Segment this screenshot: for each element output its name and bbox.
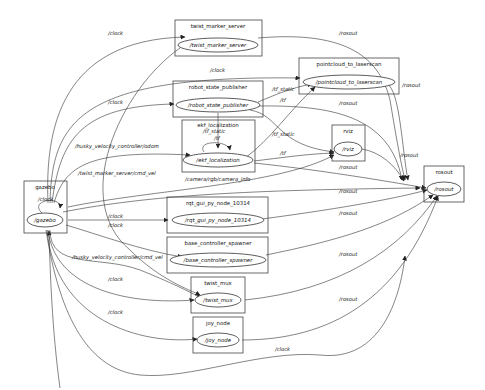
edge-clock-base[interactable] xyxy=(66,225,182,257)
node-pointcloud-to-laserscan[interactable]: pointcloud_to_laserscan /pointcloud_to_l… xyxy=(299,58,399,94)
label-rosout-base: /rosout xyxy=(338,210,358,216)
label-tf-static-pc: /tf_static xyxy=(271,86,295,93)
cluster-title: rqt_gui_py_node_10314 xyxy=(186,200,251,207)
edge-clock-twist-mux[interactable] xyxy=(48,230,194,301)
cluster-title: twist_mux xyxy=(204,280,232,287)
cluster-title: rviz xyxy=(343,128,353,134)
cluster-title: gazebo xyxy=(35,184,55,191)
node-label: /rqt_gui_py_node_10314 xyxy=(184,217,251,224)
label-rosout-joy: /rosout xyxy=(338,296,358,302)
edge-tf-rviz[interactable] xyxy=(254,153,334,161)
label-odom: /husky_velocity_controller/odom xyxy=(74,143,159,150)
self-loop-label-tf: /tf xyxy=(213,135,221,141)
edge-rosout-base[interactable] xyxy=(266,195,433,255)
node-label: /robot_state_publisher xyxy=(187,102,249,109)
label-rosout-twist-marker: /rosout xyxy=(338,30,358,36)
node-label: /twist_mux xyxy=(202,297,233,304)
label-twist-marker-cmd-vel: /twist_marker_server/cmd_vel xyxy=(77,170,156,177)
cluster-title: twist_marker_server xyxy=(191,23,246,30)
label-rosout-rviz: /rosout xyxy=(399,152,419,158)
node-rqt-gui-py-node[interactable]: rqt_gui_py_node_10314 /rqt_gui_py_node_1… xyxy=(167,197,268,233)
label-camera-info: /camera/rgb/camera_info xyxy=(184,176,250,183)
node-label: /ekf_localization xyxy=(195,157,240,164)
edge-clock-robot-state[interactable] xyxy=(52,104,174,203)
node-rosout[interactable]: rosout /rosout xyxy=(424,166,464,202)
edge-rosout-robot-state[interactable] xyxy=(258,106,402,180)
node-base-controller-spawner[interactable]: base_controller_spawner /base_controller… xyxy=(167,237,268,273)
self-loop-label-tf-static: /tf_static xyxy=(202,128,226,135)
label-tf-rviz: /tf xyxy=(279,150,287,156)
node-label: /rviz xyxy=(341,146,354,152)
label-clock-rqt: /clock xyxy=(107,213,124,219)
label-rosout-pointcloud: /rosout xyxy=(401,82,421,88)
node-twist-marker-server[interactable]: twist_marker_server /twist_marker_server xyxy=(175,20,262,56)
label-rosout-rqt: /rosout xyxy=(338,188,358,194)
edge-rosout-pointcloud[interactable] xyxy=(387,84,408,180)
label-clock-pointcloud: /clock xyxy=(209,67,226,73)
label-clock-base: /clock xyxy=(107,222,124,228)
label-clock-rosout-bottom: /clock xyxy=(274,346,291,352)
node-label: /gazebo xyxy=(33,217,56,224)
node-label: /rosout xyxy=(434,186,455,192)
label-clock-joy: /clock xyxy=(107,309,124,315)
node-joy-node[interactable]: joy_node /joy_node xyxy=(193,317,243,353)
node-robot-state-publisher[interactable]: robot_state_publisher /robot_state_publi… xyxy=(173,81,263,117)
label-tf-pc: /tf xyxy=(279,97,287,103)
node-twist-mux[interactable]: twist_mux /twist_mux xyxy=(191,277,245,313)
edge-gazebo-self-loop[interactable] xyxy=(39,200,60,213)
cluster-title: robot_state_publisher xyxy=(189,84,248,91)
cluster-title: rosout xyxy=(435,169,452,175)
node-gazebo[interactable]: gazebo /clock /gazebo xyxy=(24,181,67,233)
edge-rosout-rviz[interactable] xyxy=(362,149,404,181)
cluster-title: joy_node xyxy=(205,320,231,327)
node-ekf-localization[interactable]: ekf_localization /tf_static /tf /ekf_loc… xyxy=(182,120,255,172)
label-husky-cmd-vel: /husky_velocity_controller/cmd_vel xyxy=(71,254,163,261)
cluster-title: base_controller_spawner xyxy=(185,240,253,247)
label-rosout-twist-mux: /rosout xyxy=(338,251,358,257)
self-loop-label-clock: /clock xyxy=(37,196,54,202)
label-clock-twist-mux: /clock xyxy=(107,276,124,282)
node-label: /joy_node xyxy=(204,337,232,344)
node-label: /twist_marker_server xyxy=(189,42,247,49)
cluster-title: pointcloud_to_laserscan xyxy=(317,61,382,68)
node-label: /pointcloud_to_laserscan xyxy=(315,79,383,86)
edge-ekf-self-loop[interactable] xyxy=(203,143,230,152)
node-label: /base_controller_spawner xyxy=(183,257,254,264)
label-rosout-ekf: /rosout xyxy=(338,164,358,170)
label-tf-static-rviz: /tf_static xyxy=(271,131,295,138)
node-rviz[interactable]: rviz /rviz xyxy=(332,125,365,161)
label-clock-twist-marker: /clock xyxy=(107,30,124,36)
label-clock-robot-state: /clock xyxy=(107,99,124,105)
edge-clock-twist-marker[interactable] xyxy=(48,37,185,203)
label-rosout-robot-state: /rosout xyxy=(338,100,358,106)
ros-graph-canvas: /clock /clock /clock /husky_velocity_con… xyxy=(0,0,485,390)
edge-odom[interactable] xyxy=(54,154,190,203)
edge-clock-pointcloud[interactable] xyxy=(50,78,300,203)
